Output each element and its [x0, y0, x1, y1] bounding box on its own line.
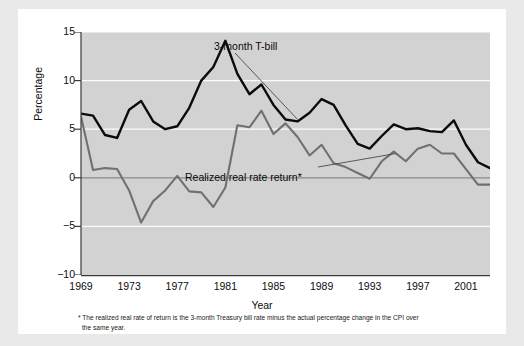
x-tick-label: 1985 [253, 281, 293, 292]
plot-area [81, 32, 490, 275]
y-tick-label: −5 [18, 220, 75, 231]
footnote-line-1: * The realized real rate of return is th… [78, 314, 419, 321]
series-annotation-realized-real-rate: Realized real rate return* [185, 171, 302, 183]
figure-panel: Percentage 151050−5−10 3-month T-bill Re… [18, 9, 506, 334]
x-axis-tick-labels: 196919731977198119851989199319972001 [18, 281, 506, 297]
gridlines [81, 32, 490, 226]
y-axis-tick-labels: 151050−5−10 [18, 9, 75, 309]
x-tick-label: 2001 [446, 281, 486, 292]
y-axis-ticks [74, 32, 88, 275]
series-line-realized-real-rate [81, 111, 490, 223]
footnote-line-2: the same year. [78, 323, 503, 333]
x-tick-label: 1989 [302, 281, 342, 292]
x-tick-label: 1981 [205, 281, 245, 292]
y-tick-label: 15 [18, 26, 75, 37]
y-tick-label: 10 [18, 75, 75, 86]
y-tick-label: 5 [18, 123, 75, 134]
x-axis-title: Year [18, 299, 506, 311]
x-tick-label: 1993 [350, 281, 390, 292]
y-tick-label: 0 [18, 172, 75, 183]
footnote: * The realized real rate of return is th… [78, 313, 503, 333]
series-line-3-month-tbill [81, 41, 490, 168]
x-tick-label: 1997 [398, 281, 438, 292]
x-tick-label: 1969 [61, 281, 101, 292]
x-tick-label: 1977 [157, 281, 197, 292]
series-annotation-tbill: 3-month T-bill [214, 40, 277, 52]
chart-svg [81, 32, 490, 275]
y-tick-label: −10 [18, 269, 75, 280]
x-tick-label: 1973 [109, 281, 149, 292]
